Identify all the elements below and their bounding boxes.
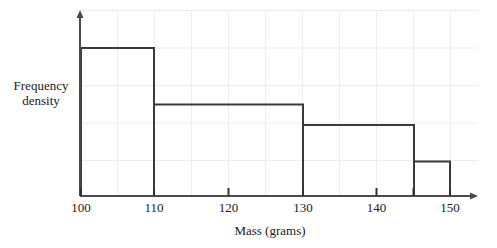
x-tick-label-110: 110 xyxy=(144,200,163,215)
histogram-chart: 100 110 120 130 140 150 Mass (grams) Fre… xyxy=(0,0,497,248)
x-tick-label-130: 130 xyxy=(293,200,313,215)
x-axis-tick-labels: 100 110 120 130 140 150 xyxy=(71,200,460,215)
y-axis-title-line2: density xyxy=(22,93,60,108)
chart-canvas: 100 110 120 130 140 150 Mass (grams) Fre… xyxy=(0,0,497,248)
x-axis-arrowhead xyxy=(470,193,478,200)
x-tick-label-100: 100 xyxy=(71,200,91,215)
y-axis-title-line1: Frequency xyxy=(14,78,69,93)
y-axis-title: Frequency density xyxy=(14,78,69,108)
x-tick-label-150: 150 xyxy=(440,200,460,215)
y-axis-arrowhead xyxy=(77,10,84,18)
x-tick-label-120: 120 xyxy=(219,200,239,215)
x-tick-label-140: 140 xyxy=(367,200,387,215)
histogram-bar-145-150 xyxy=(414,162,450,197)
horizontal-gridlines xyxy=(80,11,478,161)
x-axis-title: Mass (grams) xyxy=(234,223,305,238)
